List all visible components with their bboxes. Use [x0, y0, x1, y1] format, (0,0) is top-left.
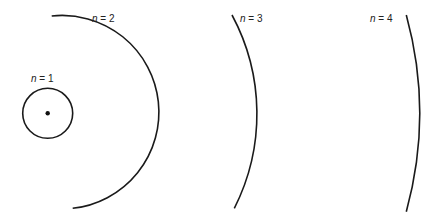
orbit-n3-arc: [232, 15, 257, 208]
label-equals: =: [98, 13, 109, 24]
label-number: 1: [48, 73, 54, 84]
orbit-n1-label: n = 1: [31, 73, 54, 84]
label-number: 3: [257, 13, 263, 24]
label-number: 2: [109, 13, 115, 24]
orbit-n2-arc: [52, 15, 159, 208]
label-equals: =: [37, 73, 48, 84]
nucleus-dot: [46, 111, 50, 115]
label-number: 4: [387, 13, 393, 24]
label-equals: =: [246, 13, 257, 24]
orbit-n4-arc: [406, 15, 419, 212]
bohr-orbits-diagram: n = 1 n = 2 n = 3 n = 4: [0, 0, 434, 216]
label-equals: =: [376, 13, 387, 24]
orbit-n4-label: n = 4: [370, 13, 393, 24]
orbit-n2-label: n = 2: [92, 13, 115, 24]
orbit-n3-label: n = 3: [240, 13, 263, 24]
